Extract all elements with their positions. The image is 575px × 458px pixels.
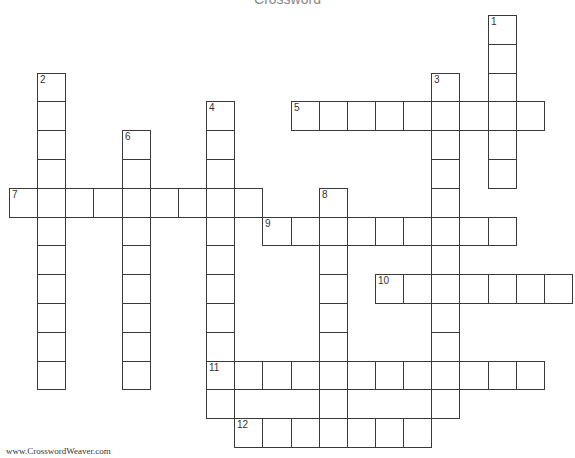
grid-cell[interactable] [431,274,460,304]
grid-cell[interactable] [37,245,66,275]
grid-cell[interactable] [291,217,320,246]
grid-cell[interactable] [93,188,123,218]
grid-cell[interactable] [122,274,151,304]
grid-cell[interactable]: 12 [234,418,263,448]
grid-cell[interactable] [488,130,517,160]
grid-cell[interactable] [122,217,151,246]
grid-cell[interactable] [403,217,432,246]
grid-cell[interactable]: 9 [262,217,292,246]
grid-cell[interactable] [65,188,94,218]
grid-cell[interactable] [319,217,348,246]
grid-cell[interactable]: 5 [291,101,320,131]
grid-cell[interactable] [459,361,489,390]
grid-cell[interactable]: 8 [319,188,348,218]
grid-cell[interactable] [122,245,151,275]
grid-cell[interactable] [488,44,517,74]
grid-cell[interactable] [488,159,517,189]
clue-number: 5 [294,102,300,113]
grid-cell[interactable] [262,418,292,448]
grid-cell[interactable] [319,332,348,362]
grid-cell[interactable] [431,245,460,275]
grid-cell[interactable] [431,159,460,189]
grid-cell[interactable] [459,217,489,246]
grid-cell[interactable] [431,361,460,390]
grid-cell[interactable] [403,418,432,448]
grid-cell[interactable] [37,274,66,304]
grid-cell[interactable] [319,274,348,304]
grid-cell[interactable] [37,101,66,131]
grid-cell[interactable] [375,418,404,448]
grid-cell[interactable] [37,159,66,189]
grid-cell[interactable] [488,101,517,131]
grid-cell[interactable] [347,101,376,131]
grid-cell[interactable] [319,303,348,333]
grid-cell[interactable]: 10 [375,274,404,304]
grid-cell[interactable] [319,389,348,419]
grid-cell[interactable]: 6 [122,130,151,160]
grid-cell[interactable] [37,332,66,362]
grid-cell[interactable] [206,217,235,246]
grid-cell[interactable] [122,159,151,189]
grid-cell[interactable] [431,303,460,333]
grid-cell[interactable] [516,101,545,131]
grid-cell[interactable] [206,188,235,218]
grid-cell[interactable] [206,159,235,189]
grid-cell[interactable] [319,245,348,275]
grid-cell[interactable] [122,188,151,218]
grid-cell[interactable] [178,188,207,218]
grid-cell[interactable] [206,389,235,419]
grid-cell[interactable]: 4 [206,101,235,131]
grid-cell[interactable] [206,274,235,304]
grid-cell[interactable] [516,361,545,390]
grid-cell[interactable] [431,217,460,246]
grid-cell[interactable] [234,188,263,218]
grid-cell[interactable] [431,389,460,419]
grid-cell[interactable] [206,332,235,362]
grid-cell[interactable] [403,361,432,390]
grid-cell[interactable] [37,303,66,333]
grid-cell[interactable] [459,274,489,304]
grid-cell[interactable] [375,101,404,131]
grid-cell[interactable] [488,217,517,246]
grid-cell[interactable] [37,188,66,218]
grid-cell[interactable] [431,332,460,362]
grid-cell[interactable] [347,361,376,390]
grid-cell[interactable] [431,188,460,218]
grid-cell[interactable] [150,188,179,218]
grid-cell[interactable] [37,217,66,246]
grid-cell[interactable] [403,101,432,131]
grid-cell[interactable] [403,274,432,304]
grid-cell[interactable] [37,130,66,160]
grid-cell[interactable] [319,361,348,390]
grid-cell[interactable] [516,274,545,304]
grid-cell[interactable] [262,361,292,390]
grid-cell[interactable] [206,245,235,275]
grid-cell[interactable] [291,418,320,448]
grid-cell[interactable] [319,101,348,131]
grid-cell[interactable] [347,418,376,448]
grid-cell[interactable] [291,361,320,390]
grid-cell[interactable] [431,101,460,131]
grid-cell[interactable] [122,332,151,362]
grid-cell[interactable] [206,130,235,160]
grid-cell[interactable] [234,361,263,390]
grid-cell[interactable] [459,101,489,131]
grid-cell[interactable] [37,361,66,390]
grid-cell[interactable]: 2 [37,73,66,102]
grid-cell[interactable] [375,217,404,246]
grid-cell[interactable] [375,361,404,390]
grid-cell[interactable]: 11 [206,361,235,390]
grid-cell[interactable]: 3 [431,73,460,102]
grid-cell[interactable] [122,303,151,333]
grid-cell[interactable]: 7 [9,188,38,218]
grid-cell[interactable]: 1 [488,15,517,45]
grid-cell[interactable] [488,361,517,390]
grid-cell[interactable] [544,274,573,304]
grid-cell[interactable] [431,130,460,160]
grid-cell[interactable] [347,217,376,246]
grid-cell[interactable] [488,274,517,304]
grid-cell[interactable] [488,73,517,102]
grid-cell[interactable] [319,418,348,448]
grid-cell[interactable] [206,303,235,333]
grid-cell[interactable] [122,361,151,390]
